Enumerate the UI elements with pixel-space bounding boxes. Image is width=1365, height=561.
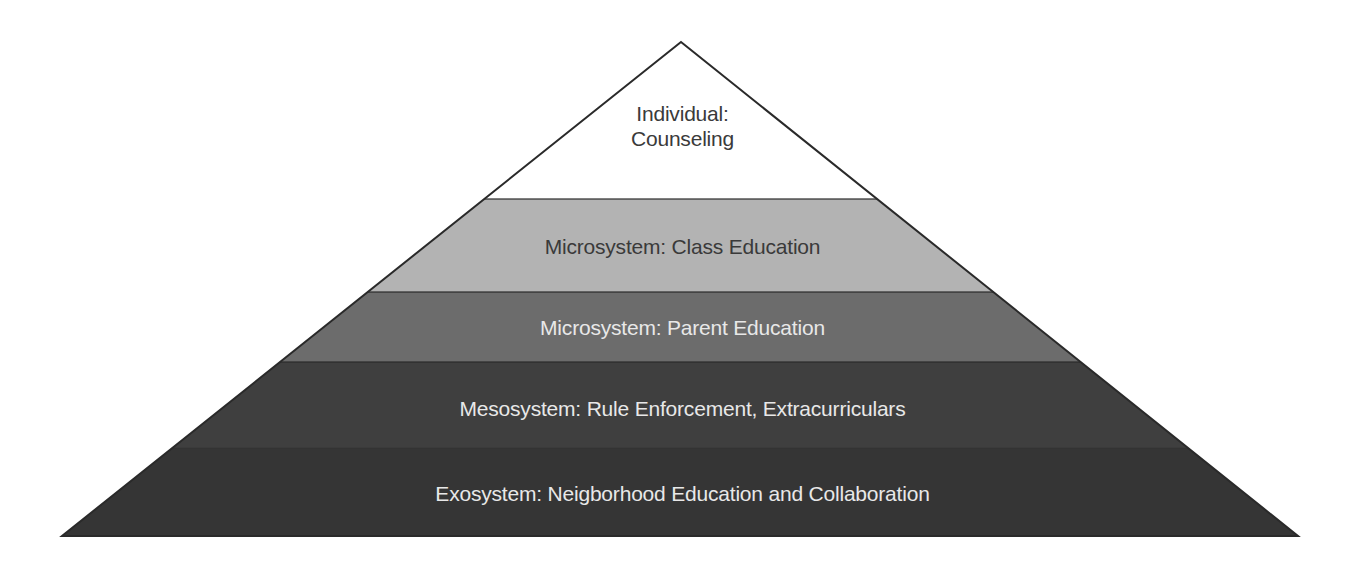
tier-label-microsystem-parent: Microsystem: Parent Education — [0, 315, 1365, 340]
tier-label-microsystem-class: Microsystem: Class Education — [0, 234, 1365, 259]
tier-label-individual-line1: Individual: — [0, 101, 1365, 126]
pyramid-diagram — [0, 0, 1365, 561]
tier-label-individual-line2: Counseling — [0, 126, 1365, 151]
tier-label-individual: Individual: Counseling — [0, 101, 1365, 151]
tier-label-mesosystem: Mesosystem: Rule Enforcement, Extracurri… — [0, 396, 1365, 421]
tier-label-exosystem: Exosystem: Neigborhood Education and Col… — [0, 481, 1365, 506]
